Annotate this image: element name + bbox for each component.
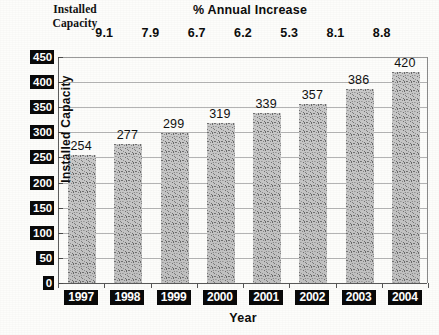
bar-1999 bbox=[161, 133, 189, 283]
x-tick-mark-2 bbox=[151, 283, 152, 288]
annual-increase-value-2002-2003: 8.1 bbox=[316, 26, 356, 40]
y-tick-label-50: 50 bbox=[36, 251, 54, 265]
plot-area bbox=[58, 57, 428, 283]
x-tick-mark-4 bbox=[243, 283, 244, 288]
annual-increase-value-1998-1999: 7.9 bbox=[131, 26, 171, 40]
bar-2001 bbox=[253, 113, 281, 283]
gridline-450 bbox=[59, 57, 427, 58]
bar-2002 bbox=[299, 104, 327, 283]
x-tick-mark-8 bbox=[428, 283, 429, 288]
x-tick-mark-5 bbox=[289, 283, 290, 288]
installed-capacity-header-line1: Installed bbox=[38, 3, 112, 17]
y-tick-label-250: 250 bbox=[30, 150, 54, 164]
bar-2004 bbox=[392, 72, 420, 283]
annual-increase-value-1999-2000: 6.7 bbox=[177, 26, 217, 40]
y-tick-label-450: 450 bbox=[30, 50, 54, 64]
x-tick-label-2002: 2002 bbox=[295, 290, 329, 305]
x-tick-mark-6 bbox=[336, 283, 337, 288]
bar-value-2002: 357 bbox=[290, 88, 334, 102]
x-axis-title: Year bbox=[58, 311, 428, 325]
x-tick-label-1997: 1997 bbox=[64, 290, 98, 305]
annual-increase-value-2003-2004: 8.8 bbox=[362, 26, 402, 40]
bar-2003 bbox=[346, 89, 374, 283]
y-tick-label-0: 0 bbox=[43, 276, 54, 290]
bar-value-2000: 319 bbox=[198, 107, 242, 121]
bar-1998 bbox=[114, 144, 142, 283]
x-tick-label-2000: 2000 bbox=[203, 290, 237, 305]
x-tick-label-2003: 2003 bbox=[342, 290, 376, 305]
x-tick-label-1999: 1999 bbox=[157, 290, 191, 305]
bar-value-1997: 254 bbox=[59, 139, 103, 153]
y-tick-mark-450 bbox=[58, 57, 63, 58]
x-tick-label-2001: 2001 bbox=[249, 290, 283, 305]
y-tick-mark-150 bbox=[58, 208, 63, 209]
bar-value-1999: 299 bbox=[152, 117, 196, 131]
y-tick-mark-100 bbox=[58, 233, 63, 234]
bar-value-1998: 277 bbox=[105, 128, 149, 142]
x-tick-mark-0 bbox=[58, 283, 59, 288]
chart-header: Installed Capacity % Annual Increase 9.1… bbox=[0, 0, 439, 48]
annual-increase-value-1997-1998: 9.1 bbox=[84, 26, 124, 40]
y-tick-label-200: 200 bbox=[30, 176, 54, 190]
y-tick-label-300: 300 bbox=[30, 125, 54, 139]
annual-increase-title: % Annual Increase bbox=[130, 3, 370, 17]
x-tick-mark-7 bbox=[382, 283, 383, 288]
annual-increase-value-2000-2001: 6.2 bbox=[223, 26, 263, 40]
x-tick-label-2004: 2004 bbox=[388, 290, 422, 305]
x-tick-mark-3 bbox=[197, 283, 198, 288]
y-tick-mark-50 bbox=[58, 258, 63, 259]
y-axis-title: Installed Capacity bbox=[59, 59, 73, 199]
x-tick-label-1998: 1998 bbox=[110, 290, 144, 305]
y-tick-label-350: 350 bbox=[30, 100, 54, 114]
y-tick-label-150: 150 bbox=[30, 201, 54, 215]
x-tick-mark-1 bbox=[104, 283, 105, 288]
y-tick-label-400: 400 bbox=[30, 75, 54, 89]
bar-value-2001: 339 bbox=[244, 97, 288, 111]
y-tick-label-100: 100 bbox=[30, 226, 54, 240]
bar-2000 bbox=[207, 123, 235, 283]
annual-increase-value-2001-2002: 5.3 bbox=[269, 26, 309, 40]
bar-value-2003: 386 bbox=[337, 73, 381, 87]
bar-value-2004: 420 bbox=[383, 56, 427, 70]
